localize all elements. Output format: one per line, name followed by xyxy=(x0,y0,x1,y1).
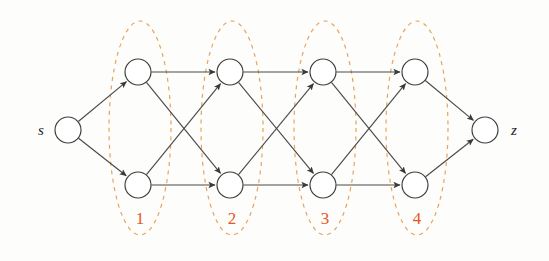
node-n1b xyxy=(125,172,151,198)
node-n3t xyxy=(310,59,336,85)
sink-label: z xyxy=(510,122,517,138)
node-n4t xyxy=(402,59,428,85)
stage-ellipse-4 xyxy=(386,21,448,235)
source-label: s xyxy=(38,122,44,138)
edge-s-to-n1b xyxy=(79,138,127,175)
edge-group xyxy=(78,72,473,185)
stage-ellipse-3 xyxy=(294,21,356,235)
edge-n2t-to-n3b xyxy=(239,82,314,173)
stage-label-4: 4 xyxy=(413,209,422,228)
edge-n4b-to-z xyxy=(426,139,474,176)
edge-n1t-to-n2b xyxy=(146,82,220,173)
stage-ellipse-1 xyxy=(109,21,171,235)
edge-n1b-to-n2t xyxy=(146,84,220,175)
trellis-figure: 1234sz xyxy=(0,0,549,261)
node-z xyxy=(472,117,498,143)
node-n1t xyxy=(125,59,151,85)
stage-label-2: 2 xyxy=(228,209,237,228)
stage-ellipse-group xyxy=(109,21,448,235)
node-n2b xyxy=(217,172,243,198)
edge-n4t-to-z xyxy=(425,81,473,121)
node-n4b xyxy=(402,172,428,198)
trellis-graph-canvas: 1234sz xyxy=(0,0,549,261)
edge-s-to-n1t xyxy=(78,82,126,122)
edge-n2b-to-n3t xyxy=(239,84,314,175)
stage-ellipse-2 xyxy=(201,21,263,235)
node-n2t xyxy=(217,59,243,85)
edge-n3b-to-n4t xyxy=(331,84,405,175)
stage-label-3: 3 xyxy=(321,209,330,228)
node-n3b xyxy=(310,172,336,198)
label-group: 1234sz xyxy=(38,122,517,228)
edge-n3t-to-n4b xyxy=(331,82,405,173)
node-s xyxy=(55,117,81,143)
stage-label-1: 1 xyxy=(136,209,145,228)
